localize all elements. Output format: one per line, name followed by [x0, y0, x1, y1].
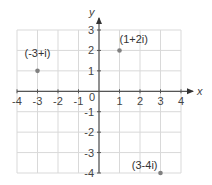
point-label: (1+2i) — [120, 33, 148, 45]
y-tick-label: -1 — [84, 106, 94, 118]
y-tick-label: -2 — [84, 126, 94, 138]
data-point — [158, 171, 163, 176]
x-tick-label: 4 — [178, 95, 184, 107]
y-tick-label: 3 — [88, 24, 94, 36]
x-tick-label: -4 — [12, 95, 22, 107]
y-tick-label: -3 — [84, 147, 94, 159]
point-label: (3-4i) — [132, 159, 158, 171]
y-tick-label: 2 — [88, 44, 94, 56]
x-tick-label: -3 — [33, 95, 43, 107]
x-tick-label: 1 — [116, 95, 122, 107]
x-tick-label: 2 — [137, 95, 143, 107]
y-tick-label: -4 — [84, 167, 94, 179]
data-point — [117, 48, 122, 53]
x-tick-label: 3 — [157, 95, 163, 107]
axes: x y 0 — [17, 6, 203, 173]
x-axis-label: x — [196, 85, 203, 97]
complex-plane-plot: x y 0 -4-3-2-11234321-1-2-3-4 (-3+i)(1+2… — [0, 0, 212, 185]
data-point — [35, 69, 40, 74]
x-tick-label: -2 — [53, 95, 63, 107]
point-label: (-3+i) — [25, 47, 51, 59]
y-axis-label: y — [88, 6, 96, 18]
origin-label: 0 — [89, 91, 95, 103]
y-tick-label: 1 — [88, 65, 94, 77]
x-tick-label: -1 — [74, 95, 84, 107]
